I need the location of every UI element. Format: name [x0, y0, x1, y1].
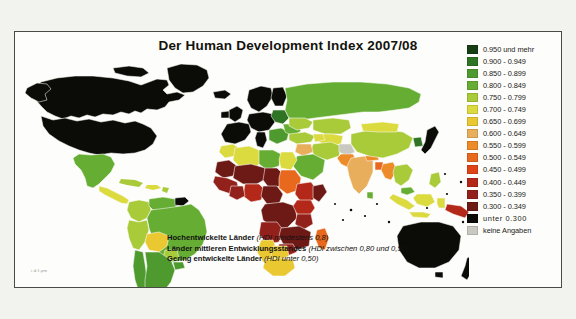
legend-swatch	[467, 57, 478, 66]
caption-term: Gering entwickelte Länder	[167, 254, 262, 263]
country-france-iberia	[221, 122, 251, 144]
caption-detail: (HDI mindestens 0,8)	[256, 233, 328, 242]
country-indonesia-sumatra	[389, 194, 415, 210]
legend-label: 0.450 - 0.499	[483, 165, 526, 174]
legend-item: keine Angaben	[467, 224, 561, 236]
legend-swatch	[467, 69, 478, 78]
legend-item: 0.900 - 0.949	[467, 55, 561, 67]
legend-label: 0.750 - 0.799	[483, 93, 526, 102]
legend-item: 0.300 - 0.349	[467, 200, 561, 212]
country-finland	[271, 87, 287, 106]
legend-label: 0.800 - 0.849	[483, 81, 526, 90]
country-canada	[33, 76, 185, 119]
legend-swatch	[467, 93, 478, 102]
caption-detail: (HDI unter 0,50)	[264, 254, 318, 263]
island-pacific-6	[446, 193, 448, 195]
country-ghana-ivory-coast	[229, 186, 245, 200]
legend-label: 0.900 - 0.949	[483, 57, 526, 66]
legend-swatch	[467, 165, 478, 174]
country-scandinavia	[247, 86, 273, 112]
legend-label: 0.650 - 0.699	[483, 117, 526, 126]
legend-item: 0.850 - 0.899	[467, 67, 561, 79]
country-somalia	[313, 184, 327, 202]
legend-item: 0.350 - 0.399	[467, 188, 561, 200]
caption-line-high: Hochentwickelte Länder (HDI mindestens 0…	[167, 233, 467, 243]
country-japan	[421, 126, 439, 154]
island-pacific-9	[462, 221, 464, 223]
legend-swatch	[467, 214, 478, 223]
island-indian-2	[334, 203, 336, 205]
legend-swatch	[467, 178, 478, 187]
legend-label: 0.600 - 0.649	[483, 129, 526, 138]
island-pacific-5	[426, 207, 428, 209]
legend-swatch	[467, 190, 478, 199]
country-central-america	[99, 186, 129, 204]
legend-swatch	[467, 81, 478, 90]
map-figure: Der Human Development Index 2007/08	[14, 31, 562, 288]
island-pacific-1	[350, 209, 353, 212]
legend-label: 0.850 - 0.899	[483, 69, 526, 78]
country-peru	[127, 220, 149, 250]
caption-term: Länder mittleren Entwicklungsstandes	[167, 244, 306, 253]
country-borneo	[413, 194, 435, 207]
legend-label: 0.350 - 0.399	[483, 190, 526, 199]
legend-item: 0.750 - 0.799	[467, 91, 561, 103]
country-indonesia-java	[409, 212, 431, 218]
country-philippines	[429, 172, 441, 188]
country-ireland	[221, 111, 229, 118]
country-sulawesi	[437, 198, 445, 208]
country-mongolia	[361, 122, 399, 132]
legend-label: 0.400 - 0.449	[483, 178, 526, 187]
country-kazakhstan	[313, 118, 351, 134]
map-caption: Hochentwickelte Länder (HDI mindestens 0…	[167, 233, 467, 264]
country-hispaniola	[145, 185, 161, 190]
island-pacific-7	[460, 181, 462, 183]
country-tasmania	[435, 272, 443, 278]
country-cuba	[119, 179, 143, 187]
legend-label: 0.500 - 0.549	[483, 153, 526, 162]
map-legend: 0.950 und mehr 0.900 - 0.949 0.850 - 0.8…	[467, 43, 561, 237]
island-pacific-8	[444, 173, 446, 175]
country-iceland	[213, 90, 231, 99]
legend-item: 0.600 - 0.649	[467, 128, 561, 140]
country-turkey	[289, 132, 315, 144]
country-papua-new-guinea	[445, 204, 469, 218]
country-arctic-islands	[113, 66, 149, 77]
legend-item: 0.450 - 0.499	[467, 164, 561, 176]
legend-item: 0.400 - 0.449	[467, 176, 561, 188]
legend-label: keine Angaben	[483, 226, 531, 235]
country-sri-lanka	[367, 192, 373, 199]
island-pacific-2	[364, 215, 366, 217]
legend-item: 0.800 - 0.849	[467, 79, 561, 91]
legend-swatch	[467, 45, 478, 54]
legend-swatch	[467, 153, 478, 162]
country-italy	[255, 132, 267, 148]
region-north-america	[25, 64, 209, 204]
country-malaysia	[401, 187, 415, 195]
country-india	[347, 156, 373, 194]
caption-line-medium: Länder mittleren Entwicklungsstandes (HD…	[167, 244, 467, 254]
caption-detail: (HDI zwischen 0,80 und 0,50)	[308, 244, 408, 253]
legend-label: 0.950 und mehr	[483, 45, 534, 54]
island-pacific-3	[376, 203, 378, 205]
country-british-isles	[229, 106, 243, 122]
country-china	[351, 130, 413, 158]
legend-item: 0.550 - 0.599	[467, 140, 561, 152]
island-indian-1	[342, 219, 344, 221]
legend-label: 0.700 - 0.749	[483, 105, 526, 114]
country-russia	[285, 82, 421, 120]
country-caribbean-islands	[162, 187, 169, 193]
source-credit: i.d.f-pm	[31, 268, 47, 273]
legend-item: unter 0.300	[467, 212, 561, 224]
country-central-europe	[247, 112, 275, 132]
legend-swatch	[467, 226, 478, 235]
legend-swatch	[467, 141, 478, 150]
country-mali-niger	[233, 164, 267, 184]
legend-label: unter 0.300	[483, 214, 527, 223]
caption-line-low: Gering entwickelte Länder (HDI unter 0,5…	[167, 254, 467, 264]
legend-swatch	[467, 105, 478, 114]
country-korea	[413, 137, 423, 147]
country-united-states	[41, 116, 157, 155]
legend-swatch	[467, 129, 478, 138]
caption-term: Hochentwickelte Länder	[167, 233, 254, 242]
